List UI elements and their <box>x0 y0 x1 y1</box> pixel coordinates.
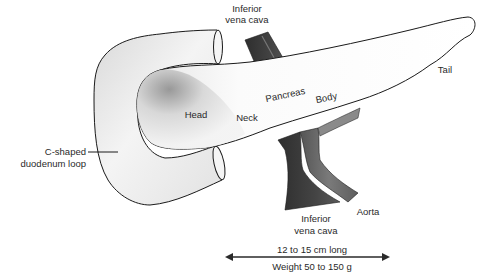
weight-label: Weight 50 to 150 g <box>272 261 352 272</box>
duodenum-label-line1: C-shaped <box>45 146 86 157</box>
ivc-top-label-line1: Inferior <box>232 3 262 14</box>
pancreas-diagram: Inferior vena cava Head Neck Pancreas Bo… <box>0 0 479 280</box>
arrow-right-icon <box>382 253 390 261</box>
head-label: Head <box>185 109 208 120</box>
ivc-bottom-label-line2: vena cava <box>294 225 338 236</box>
tail-label: Tail <box>438 64 452 75</box>
ivc-bottom-label-line1: Inferior <box>301 213 331 224</box>
duodenum-upper-opening <box>214 30 223 64</box>
arrow-left-icon <box>225 253 233 261</box>
aorta-label: Aorta <box>357 206 380 217</box>
duodenum-label-line2: duodenum loop <box>21 158 87 169</box>
ivc-top-label-line2: vena cava <box>225 14 269 25</box>
neck-label: Neck <box>236 112 258 123</box>
length-label: 12 to 15 cm long <box>277 244 347 255</box>
